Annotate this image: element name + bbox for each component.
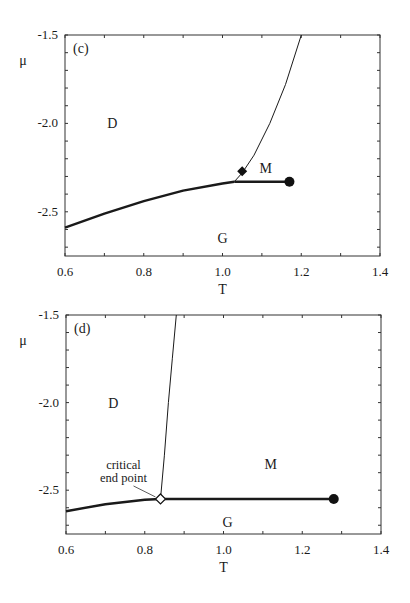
y-tick-label: -2.0: [37, 115, 58, 130]
y-tick-label: -1.5: [38, 307, 59, 322]
x-tick-label: 0.6: [57, 264, 74, 279]
panel-d: 0.60.81.01.21.4-1.5-2.0-2.5Tμ(d)DMGcriti…: [19, 307, 389, 575]
x-axis-title: T: [219, 560, 228, 575]
x-tick-label: 0.8: [137, 542, 153, 557]
x-tick-label: 0.8: [136, 264, 152, 279]
y-tick-label: -1.5: [37, 27, 58, 42]
y-tick-label: -2.5: [37, 204, 58, 219]
phase-boundary-line: [161, 315, 177, 499]
plot-frame: [65, 35, 380, 256]
region-label-d: D: [108, 396, 118, 411]
region-label-g: G: [222, 515, 232, 530]
y-axis-title: μ: [19, 53, 27, 68]
annotation-text: end point: [100, 471, 147, 485]
panel-label: (c): [73, 41, 89, 57]
critical-end-point-marker: [156, 494, 166, 504]
x-tick-label: 0.6: [58, 542, 75, 557]
phase-boundary-line: [65, 182, 234, 228]
y-tick-label: -2.0: [38, 395, 59, 410]
critical-point-marker: [329, 494, 339, 504]
x-tick-label: 1.4: [373, 542, 390, 557]
x-tick-label: 1.2: [293, 264, 309, 279]
panel-label: (d): [74, 321, 91, 337]
annotation-text: critical: [106, 458, 141, 472]
critical-point-marker: [284, 177, 294, 187]
region-label-m: M: [265, 457, 278, 472]
x-tick-label: 1.2: [294, 542, 310, 557]
region-label-g: G: [217, 231, 227, 246]
x-tick-label: 1.0: [214, 264, 230, 279]
region-label-m: M: [260, 161, 273, 176]
y-axis-title: μ: [19, 333, 27, 348]
x-tick-label: 1.4: [372, 264, 389, 279]
x-tick-label: 1.0: [215, 542, 231, 557]
panel-c: 0.60.81.01.21.4-1.5-2.0-2.5Tμ(c)DMG: [19, 27, 388, 297]
x-axis-title: T: [218, 282, 227, 297]
phase-boundary-line: [66, 499, 161, 511]
region-label-d: D: [107, 116, 117, 131]
annotation-leader-line: [134, 486, 156, 497]
y-tick-label: -2.5: [38, 482, 59, 497]
phase-diagram-figure: 0.60.81.01.21.4-1.5-2.0-2.5Tμ(c)DMG 0.60…: [0, 0, 410, 603]
